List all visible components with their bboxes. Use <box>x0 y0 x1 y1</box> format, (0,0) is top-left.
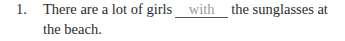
item-number: 1. <box>16 1 27 18</box>
exercise-item: 1. There are a lot of girlswiththe sungl… <box>0 0 345 41</box>
sentence-after-blank: the sunglasses at <box>231 1 328 17</box>
answer-blank[interactable]: with <box>175 2 228 18</box>
sentence-line-2: the beach. <box>43 21 102 38</box>
sentence-before-blank: There are a lot of girls <box>43 1 172 17</box>
sentence-line-1: There are a lot of girlswiththe sunglass… <box>43 1 328 18</box>
